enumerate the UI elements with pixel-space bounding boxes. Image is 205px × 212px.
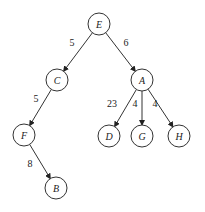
edge-weight-label: 4 — [133, 98, 138, 109]
edges: 56523448 — [28, 33, 173, 179]
node-label: E — [95, 19, 102, 30]
node-H: H — [168, 125, 190, 147]
node-label: C — [54, 75, 61, 86]
node-label: A — [138, 75, 146, 86]
node-G: G — [131, 125, 153, 147]
edge-weight-label: 6 — [124, 37, 129, 48]
edge-weight-label: 5 — [34, 93, 39, 104]
node-label: H — [174, 131, 183, 142]
edge-E-C — [64, 33, 93, 71]
node-B: B — [45, 177, 67, 199]
node-F: F — [13, 124, 35, 146]
node-D: D — [98, 125, 120, 147]
tree-diagram: 56523448 ECAFDGHB — [0, 0, 205, 212]
edge-F-B — [30, 144, 51, 178]
node-A: A — [131, 69, 153, 91]
nodes: ECAFDGHB — [13, 13, 190, 199]
node-C: C — [46, 69, 68, 91]
edge-E-A — [106, 33, 136, 72]
node-label: B — [53, 183, 59, 194]
node-label: D — [104, 131, 113, 142]
edge-weight-label: 23 — [107, 98, 117, 109]
edge-weight-label: 5 — [70, 37, 75, 48]
node-label: G — [138, 131, 145, 142]
edge-weight-label: 8 — [28, 158, 33, 169]
edge-weight-label: 4 — [153, 98, 158, 109]
node-E: E — [88, 13, 110, 35]
node-label: F — [20, 130, 28, 141]
